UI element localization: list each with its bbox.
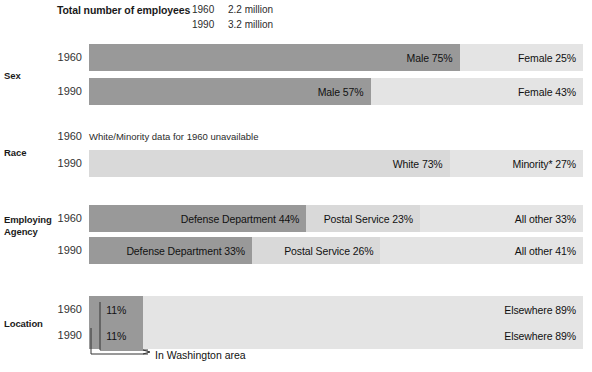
- bar-segment-label: Postal Service 26%: [284, 245, 373, 257]
- year-label-agency-1990: 1990: [38, 244, 82, 256]
- bar-segment-male-1960: Male 75%: [89, 44, 460, 71]
- bar-segment-defense-department-1960: Defense Department 44%: [89, 205, 306, 232]
- header-value-1960: 2.2 million: [228, 4, 273, 15]
- year-label-sex-1990: 1990: [38, 85, 82, 97]
- bar-segment-label: Postal Service 23%: [324, 213, 413, 225]
- bar-sex-1960: Male 75% Female 25%: [89, 44, 583, 71]
- year-label-location-1960: 1960: [38, 303, 82, 315]
- bar-segment-male-1990: Male 57%: [89, 78, 371, 105]
- bar-agency-1960: Defense Department 44% Postal Service 23…: [89, 205, 583, 232]
- bar-segment-label: All other 33%: [515, 213, 576, 225]
- bar-segment-minority-1990: Minority* 27%: [450, 150, 583, 177]
- bar-segment-elsewhere-1990: Elsewhere 89%: [143, 322, 583, 349]
- bar-segment-label: White 73%: [393, 158, 443, 170]
- year-label-sex-1960: 1960: [38, 51, 82, 63]
- year-label-location-1990: 1990: [38, 329, 82, 341]
- bar-segment-label: Defense Department 33%: [126, 245, 245, 257]
- bar-segment-all-other-1960: All other 33%: [420, 205, 583, 232]
- page-title: Total number of employees: [57, 4, 190, 16]
- year-label-race-1990: 1990: [38, 157, 82, 169]
- bar-segment-label: Female 43%: [518, 86, 576, 98]
- bar-race-1990: White 73% Minority* 27%: [89, 150, 583, 177]
- header-year-1990: 1990: [192, 19, 214, 30]
- bar-segment-female-1990: Female 43%: [371, 78, 583, 105]
- bar-segment-label: Male 57%: [318, 86, 364, 98]
- bar-segment-label: Elsewhere 89%: [504, 304, 576, 316]
- bar-segment-label: Female 25%: [518, 52, 576, 64]
- bar-sex-1990: Male 57% Female 43%: [89, 78, 583, 105]
- bar-segment-postal-service-1960: Postal Service 23%: [306, 205, 420, 232]
- header-value-1990: 3.2 million: [228, 19, 273, 30]
- washington-callout-label: In Washington area: [155, 349, 246, 361]
- bar-segment-label: Elsewhere 89%: [504, 330, 576, 342]
- header-year-1960: 1960: [192, 4, 214, 15]
- group-label-sex: Sex: [4, 70, 21, 81]
- bar-segment-white-1990: White 73%: [89, 150, 450, 177]
- chart-header: Total number of employees 1960 2.2 milli…: [0, 0, 592, 36]
- bar-segment-female-1960: Female 25%: [460, 44, 584, 71]
- bar-segment-label: Minority* 27%: [513, 158, 576, 170]
- bar-segment-label: All other 41%: [515, 245, 576, 257]
- bar-segment-label: Male 75%: [407, 52, 453, 64]
- washington-callout-leader-lines: [88, 300, 158, 358]
- bar-location-1990: 11% Elsewhere 89%: [89, 322, 583, 349]
- year-label-race-1960: 1960: [38, 130, 82, 142]
- race-1960-unavailable-note: White/Minority data for 1960 unavailable: [89, 131, 259, 142]
- group-label-location: Location: [4, 318, 43, 329]
- bar-segment-elsewhere-1960: Elsewhere 89%: [143, 296, 583, 323]
- bar-segment-defense-department-1990: Defense Department 33%: [89, 237, 252, 264]
- group-label-race: Race: [4, 147, 26, 158]
- bar-segment-all-other-1990: All other 41%: [380, 237, 583, 264]
- bar-segment-postal-service-1990: Postal Service 26%: [252, 237, 380, 264]
- bar-segment-label: Defense Department 44%: [181, 213, 300, 225]
- bar-agency-1990: Defense Department 33% Postal Service 26…: [89, 237, 583, 264]
- year-label-agency-1960: 1960: [38, 212, 82, 224]
- group-label-employing-agency-line2: Agency: [4, 226, 38, 237]
- bar-location-1960: 11% Elsewhere 89%: [89, 296, 583, 323]
